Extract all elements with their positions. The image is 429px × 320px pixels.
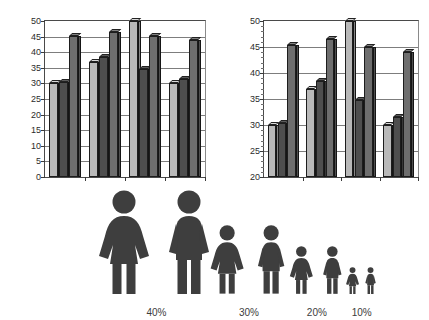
pictogram-group (345, 267, 378, 294)
bar-face (59, 82, 68, 177)
y-tick-mark (41, 177, 45, 178)
bar-chart-zoomed-scale: 20253035404550 (215, 0, 429, 190)
bar-group (303, 21, 342, 177)
bar-group (264, 21, 303, 177)
female-figure-icon (288, 246, 315, 294)
bar (306, 89, 314, 177)
charts-row: 05101520253035404550 20253035404550 (0, 0, 429, 190)
y-axis-label: 20 (250, 173, 260, 182)
pictogram-percentage-label: 40% (146, 307, 166, 318)
x-tick-mark (165, 177, 166, 181)
x-tick-mark (303, 177, 304, 181)
bar (268, 125, 276, 177)
bar (316, 81, 324, 177)
bar-face (316, 81, 324, 177)
bar-face (169, 83, 178, 177)
bar (326, 39, 334, 177)
bar (403, 52, 411, 177)
bar-face (179, 79, 188, 177)
bar-group (125, 21, 165, 177)
bar (355, 100, 363, 177)
bar-face (364, 47, 372, 177)
bar-face (149, 36, 158, 177)
bar (345, 21, 353, 177)
bar-group (380, 21, 419, 177)
bar (179, 79, 188, 177)
y-axis-label: 5 (36, 157, 41, 166)
bar-face (129, 21, 138, 177)
bar-face (393, 117, 401, 177)
bar (364, 47, 372, 177)
bar (169, 83, 178, 177)
bar-side (118, 32, 121, 177)
bar-group (85, 21, 125, 177)
y-axis-label: 0 (36, 173, 41, 182)
bar (49, 83, 58, 177)
bar (69, 36, 78, 177)
y-axis-label: 40 (31, 48, 41, 57)
bar (129, 21, 138, 177)
male-figure-icon (363, 267, 378, 294)
y-axis-label: 35 (250, 95, 260, 104)
y-axis-label: 10 (31, 141, 41, 150)
pictogram-group (95, 190, 218, 294)
bar-face (189, 40, 198, 177)
x-tick-mark (380, 177, 381, 181)
y-axis-label: 45 (250, 43, 260, 52)
bar-face (355, 100, 363, 177)
bar-face (383, 125, 391, 177)
pictogram-percentage-label: 20% (307, 307, 327, 318)
bar-face (278, 123, 286, 177)
bar (383, 125, 391, 177)
y-tick-mark (260, 177, 264, 178)
male-figure-icon (319, 246, 346, 294)
plot-area-right: 20253035404550 (263, 20, 419, 178)
female-figure-icon (208, 225, 246, 294)
bar-face (287, 45, 295, 177)
bar-group (341, 21, 380, 177)
infographic-figure: 05101520253035404550 20253035404550 40%3… (0, 0, 429, 320)
y-axis-label: 25 (31, 95, 41, 104)
x-tick-mark (205, 177, 206, 181)
y-axis-label: 15 (31, 126, 41, 135)
bar-face (89, 62, 98, 177)
y-axis-label: 50 (31, 17, 41, 26)
bar (99, 57, 108, 177)
male-figure-icon (252, 225, 290, 294)
x-tick-mark (125, 177, 126, 181)
bar-face (403, 52, 411, 177)
x-tick-mark (85, 177, 86, 181)
female-figure-icon (95, 190, 153, 294)
bar-face (306, 89, 314, 177)
bar (59, 82, 68, 177)
female-figure-icon (345, 267, 360, 294)
bar-face (268, 125, 276, 177)
pictogram-group (208, 225, 290, 294)
bar-side (296, 45, 299, 177)
pictogram-percentage-label: 10% (352, 307, 372, 318)
bar-face (49, 83, 58, 177)
bar (89, 62, 98, 177)
y-axis-label: 45 (31, 32, 41, 41)
bar-face (326, 39, 334, 177)
bar-face (99, 57, 108, 177)
y-axis-label: 50 (250, 17, 260, 26)
bar-side (373, 47, 376, 177)
bar (287, 45, 295, 177)
bar-face (139, 69, 148, 177)
y-axis-label: 20 (31, 110, 41, 119)
x-tick-mark (418, 177, 419, 181)
pictogram-percentage-label: 30% (239, 307, 259, 318)
plot-area-left: 05101520253035404550 (44, 20, 206, 178)
bar (109, 32, 118, 177)
bar-side (158, 36, 161, 177)
bar-face (69, 36, 78, 177)
bar (139, 69, 148, 177)
bar-side (334, 39, 337, 177)
bar-group (165, 21, 205, 177)
bar (278, 123, 286, 177)
bar-side (411, 52, 414, 177)
bar (149, 36, 158, 177)
y-axis-label: 30 (31, 79, 41, 88)
bar-side (198, 40, 201, 177)
